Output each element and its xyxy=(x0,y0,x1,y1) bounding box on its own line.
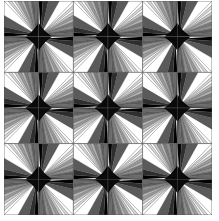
pattern-tile xyxy=(4,72,39,108)
pattern-tile xyxy=(4,37,39,73)
pattern-tile xyxy=(39,108,74,144)
pattern-tile xyxy=(39,179,74,215)
pattern-tile xyxy=(73,144,108,180)
pattern-tile xyxy=(73,108,108,144)
pattern-tile xyxy=(39,72,74,108)
pattern-tile xyxy=(108,72,143,108)
pattern-tile xyxy=(4,1,39,37)
pattern-tile xyxy=(108,179,143,215)
pattern-tile xyxy=(177,144,212,180)
pattern-tile xyxy=(73,179,108,215)
op-art-pattern xyxy=(4,1,212,215)
pattern-tile xyxy=(177,37,212,73)
pattern-tile xyxy=(143,108,178,144)
pattern-canvas xyxy=(4,1,212,215)
pattern-tile xyxy=(39,37,74,73)
pattern-tile xyxy=(143,144,178,180)
pattern-tile xyxy=(177,179,212,215)
pattern-tile xyxy=(108,108,143,144)
pattern-tile xyxy=(177,72,212,108)
pattern-tile xyxy=(143,1,178,37)
pattern-tile xyxy=(177,108,212,144)
pattern-tile xyxy=(143,72,178,108)
pattern-tile xyxy=(39,144,74,180)
pattern-tile xyxy=(108,1,143,37)
pattern-tile xyxy=(73,37,108,73)
pattern-tile xyxy=(108,37,143,73)
tile-grid xyxy=(4,1,212,215)
pattern-tile xyxy=(143,179,178,215)
pattern-tile xyxy=(177,1,212,37)
pattern-tile xyxy=(143,37,178,73)
pattern-tile xyxy=(108,144,143,180)
pattern-tile xyxy=(73,1,108,37)
pattern-tile xyxy=(73,72,108,108)
pattern-tile xyxy=(4,179,39,215)
pattern-tile xyxy=(39,1,74,37)
pattern-tile xyxy=(4,108,39,144)
pattern-tile xyxy=(4,144,39,180)
